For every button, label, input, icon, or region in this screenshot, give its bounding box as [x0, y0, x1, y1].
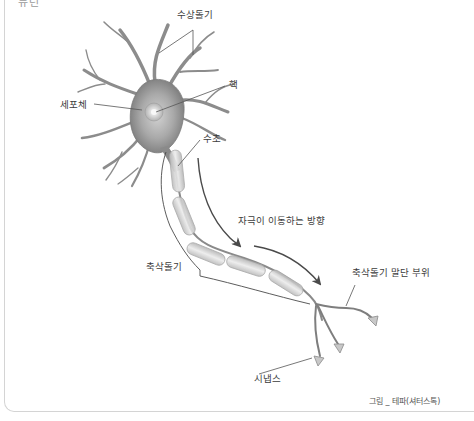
- label-axon: 축삭돌기: [146, 262, 182, 272]
- image-credit-caption: 그림 _ 테파(셔터스톡): [369, 398, 440, 406]
- axon-terminals: [315, 304, 372, 356]
- label-dendrites: 수상돌기: [177, 10, 213, 20]
- label-cell-body: 세포체: [60, 100, 87, 110]
- synaptic-knobs: [314, 316, 378, 366]
- label-myelin-sheath: 수초: [203, 134, 221, 144]
- label-signal-direction: 자극이 이동하는 방향: [238, 216, 325, 226]
- label-synapse: 시냅스: [254, 374, 281, 384]
- label-axon-terminal: 축삭돌기 말단 부위: [352, 268, 430, 278]
- label-nucleus: 핵: [229, 80, 238, 90]
- nucleus: [145, 103, 163, 121]
